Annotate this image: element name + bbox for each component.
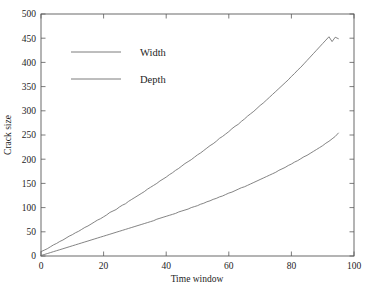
line-chart: 0204060801000501001502002503003504004505… [0, 0, 368, 294]
y-tick-label: 450 [22, 34, 37, 44]
y-tick-label: 100 [22, 203, 37, 213]
y-tick-label: 0 [31, 251, 36, 261]
x-tick-label: 80 [287, 261, 297, 271]
x-tick-label: 40 [161, 261, 171, 271]
y-tick-label: 400 [22, 58, 37, 68]
x-tick-label: 60 [224, 261, 234, 271]
chart-figure: 0204060801000501001502002503003504004505… [0, 0, 368, 294]
legend-label-depth: Depth [140, 74, 166, 85]
x-tick-label: 100 [347, 261, 362, 271]
y-tick-label: 50 [27, 227, 37, 237]
x-axis-label: Time window [171, 274, 224, 284]
y-tick-label: 350 [22, 82, 37, 92]
y-axis-label: Crack size [3, 115, 13, 155]
x-tick-label: 0 [39, 261, 44, 271]
y-tick-label: 500 [22, 9, 37, 19]
y-tick-label: 300 [22, 106, 37, 116]
x-tick-label: 20 [99, 261, 109, 271]
y-tick-label: 150 [22, 179, 37, 189]
y-tick-label: 200 [22, 155, 37, 165]
legend-label-width: Width [140, 47, 167, 58]
y-tick-label: 250 [22, 130, 37, 140]
chart-background [0, 0, 368, 294]
